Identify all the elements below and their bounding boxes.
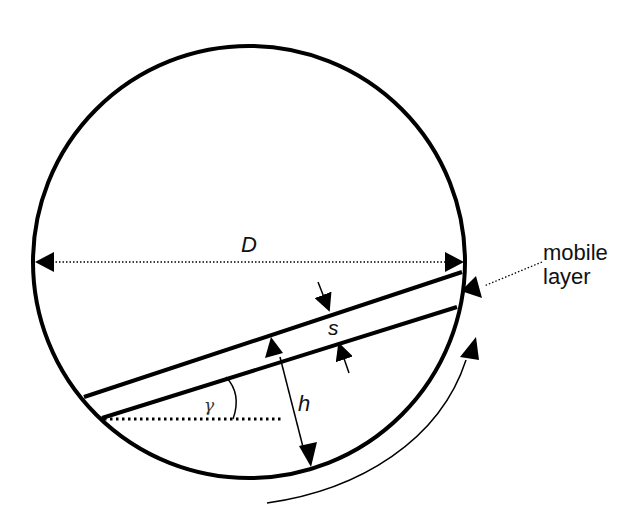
- label-mobile-layer-line2: layer: [543, 265, 608, 289]
- label-height: h: [298, 393, 310, 415]
- diameter-arrowhead-left-icon: [35, 252, 54, 272]
- label-mobile-layer: mobile layer: [543, 241, 608, 289]
- height-arrowhead-bottom-icon: [299, 442, 317, 467]
- layer-lower-boundary: [102, 307, 457, 418]
- thickness-arrow-top: [318, 282, 329, 310]
- diagram-canvas: D s h γ mobile layer: [0, 0, 641, 530]
- label-mobile-layer-line1: mobile: [543, 241, 608, 265]
- label-diameter: D: [241, 234, 257, 256]
- mobile-layer-leader: [484, 262, 542, 286]
- label-thickness: s: [328, 317, 339, 338]
- angle-arc: [226, 377, 236, 419]
- label-angle: γ: [204, 397, 214, 414]
- diameter-arrowhead-right-icon: [445, 252, 464, 272]
- thickness-arrow-bottom: [339, 344, 349, 373]
- rotation-arrow-curve: [267, 360, 466, 503]
- layer-upper-boundary: [84, 272, 462, 397]
- rotation-arrowhead-icon: [460, 337, 479, 360]
- height-arrowhead-top-icon: [265, 337, 283, 358]
